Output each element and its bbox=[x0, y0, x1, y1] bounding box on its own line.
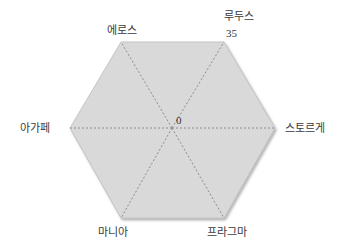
radar-chart: 35 0 루두스 에로스 아가페 스토르게 마니아 프라그마 bbox=[0, 0, 343, 248]
axis-label-mania: 마니아 bbox=[98, 226, 128, 239]
tick-label-zero: 0 bbox=[176, 114, 182, 126]
axis-label-agape: 아가페 bbox=[20, 122, 50, 135]
axis-label-ludus: 루두스 bbox=[224, 10, 254, 23]
axis-label-pragma: 프라그마 bbox=[207, 226, 247, 239]
axis-label-storge: 스토르게 bbox=[285, 122, 325, 135]
radar-area bbox=[70, 42, 275, 218]
tick-label-max: 35 bbox=[226, 27, 238, 39]
axis-label-eros: 에로스 bbox=[107, 24, 137, 37]
